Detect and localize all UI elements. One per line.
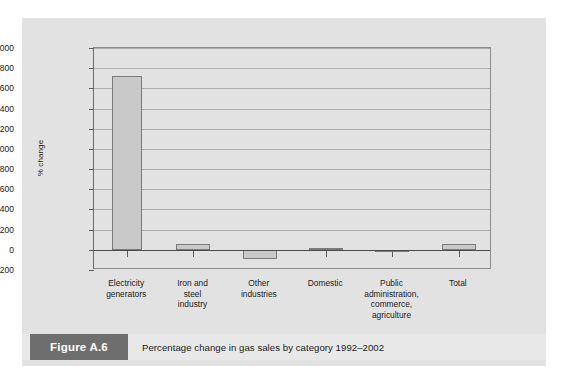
y-tick-label: 0 (0, 245, 14, 255)
y-tick-label: 2000 (0, 43, 14, 53)
x-axis-label-line: commerce, (346, 299, 436, 310)
x-tick-mark (127, 250, 128, 257)
x-axis-label-line: administration, (346, 289, 436, 300)
y-axis-title: % change (36, 118, 45, 198)
figure-container: % change -200020040060080010001200140016… (22, 18, 546, 366)
y-tick-label: 400 (0, 204, 14, 214)
bar-group (94, 48, 160, 269)
zero-axis-line (93, 250, 490, 251)
x-tick-mark (459, 250, 460, 257)
x-axis-label-line: industry (147, 299, 237, 310)
y-tick-label: 1600 (0, 83, 14, 93)
x-axis-line (94, 268, 490, 269)
y-tick-label: 600 (0, 184, 14, 194)
y-tick-label: 800 (0, 164, 14, 174)
x-axis-label-line: Total (413, 278, 503, 289)
y-tick-label: 1400 (0, 104, 14, 114)
y-tick-label: -200 (0, 265, 14, 275)
bar-group (227, 48, 293, 269)
y-tick-label: 1200 (0, 124, 14, 134)
bar-group (293, 48, 359, 269)
figure-caption-text: Percentage change in gas sales by catego… (142, 334, 384, 360)
figure-caption-bar: Figure A.6 Percentage change in gas sale… (22, 323, 546, 366)
y-tick-label: 1000 (0, 144, 14, 154)
x-axis-label-line: agriculture (346, 310, 436, 321)
bar-group (426, 48, 492, 269)
plot-area: -200020040060080010001200140016001800200… (93, 47, 491, 269)
bar-group (359, 48, 425, 269)
figure-number-badge: Figure A.6 (30, 334, 128, 360)
x-axis-label-line: industries (214, 289, 304, 300)
y-tick-label: 1800 (0, 63, 14, 73)
x-axis-label: Total (413, 278, 503, 289)
bar-chart: % change -200020040060080010001200140016… (22, 18, 546, 323)
bar (112, 76, 142, 250)
y-tick-mark (89, 270, 94, 271)
x-tick-mark (193, 250, 194, 257)
x-tick-mark (326, 250, 327, 257)
bar-group (160, 48, 226, 269)
bar (243, 250, 277, 259)
y-tick-label: 200 (0, 225, 14, 235)
